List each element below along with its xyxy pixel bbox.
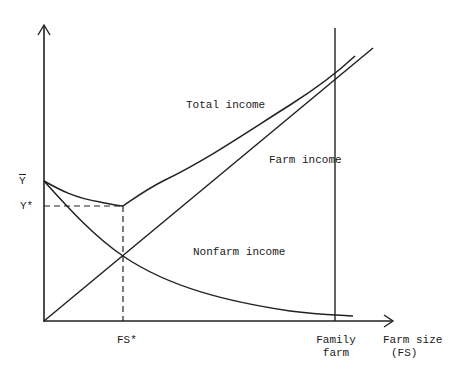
x-axis-title: Farm size (FS) xyxy=(383,334,442,360)
nonfarm-income-label: Nonfarm income xyxy=(193,246,285,259)
family-farm-line2: farm xyxy=(313,347,359,360)
x-axis-title-line1: Farm size xyxy=(383,334,442,347)
diagram-canvas xyxy=(0,0,454,370)
y-bar-label: Y xyxy=(19,174,26,188)
family-farm-label: Family farm xyxy=(313,334,359,360)
family-farm-line1: Family xyxy=(313,334,359,347)
total-income-label: Total income xyxy=(186,99,265,112)
farm-income-label: Farm income xyxy=(269,154,342,167)
total-income-curve xyxy=(44,56,355,206)
farm-income-curve xyxy=(44,48,373,321)
y-bar-text: Y xyxy=(19,174,26,187)
y-star-label: Y* xyxy=(20,200,33,213)
x-axis-title-line2: (FS) xyxy=(383,347,442,360)
fs-star-label: FS* xyxy=(117,334,137,347)
